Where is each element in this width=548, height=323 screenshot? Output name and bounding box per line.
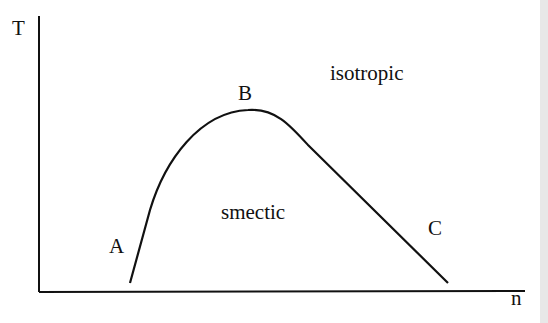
- x-axis-label: n: [511, 288, 522, 309]
- y-axis-label: T: [12, 18, 25, 39]
- page-edge-shadow: [540, 0, 548, 323]
- point-label-c: C: [428, 218, 442, 239]
- point-label-a: A: [109, 236, 124, 257]
- phase-boundary-curve: [130, 110, 448, 283]
- phase-diagram: [0, 0, 548, 323]
- point-label-b: B: [238, 83, 252, 104]
- region-label-smectic: smectic: [221, 202, 285, 223]
- region-label-isotropic: isotropic: [330, 63, 404, 84]
- x-axis: [39, 291, 525, 292]
